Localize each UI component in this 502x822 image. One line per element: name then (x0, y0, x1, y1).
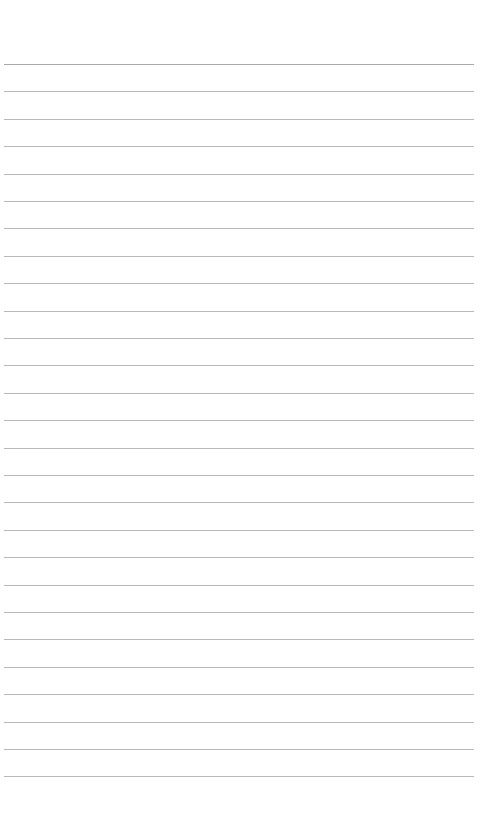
ruled-line (4, 667, 474, 668)
ruled-line (4, 393, 474, 394)
ruled-line (4, 585, 474, 586)
ruled-line (4, 146, 474, 147)
ruled-line (4, 228, 474, 229)
ruled-line (4, 776, 474, 777)
ruled-line (4, 119, 474, 120)
ruled-line (4, 448, 474, 449)
ruled-line (4, 283, 474, 284)
ruled-line (4, 749, 474, 750)
ruled-line (4, 365, 474, 366)
ruled-line (4, 256, 474, 257)
ruled-line (4, 722, 474, 723)
ruled-line (4, 311, 474, 312)
ruled-line (4, 201, 474, 202)
ruled-line (4, 502, 474, 503)
ruled-line (4, 612, 474, 613)
ruled-line (4, 64, 474, 65)
lined-paper-page (0, 0, 502, 822)
ruled-line (4, 420, 474, 421)
ruled-line (4, 639, 474, 640)
ruled-line (4, 91, 474, 92)
ruled-line (4, 338, 474, 339)
ruled-line (4, 174, 474, 175)
ruled-line (4, 475, 474, 476)
ruled-line (4, 557, 474, 558)
ruled-line (4, 694, 474, 695)
ruled-line (4, 530, 474, 531)
